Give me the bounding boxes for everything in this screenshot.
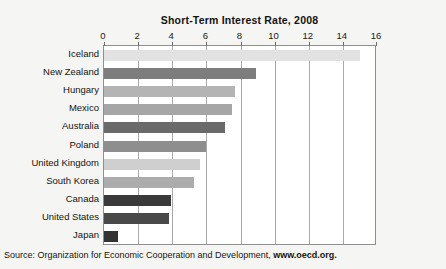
bar-new-zealand bbox=[104, 68, 256, 79]
category-label-south-korea: South Korea bbox=[0, 175, 99, 186]
bar-row bbox=[104, 195, 375, 206]
bar-row bbox=[104, 50, 375, 61]
bar-row bbox=[104, 122, 375, 133]
source-note: Source: Organization for Economic Cooper… bbox=[4, 250, 337, 260]
x-tick-label-10: 10 bbox=[268, 30, 279, 41]
bar-hungary bbox=[104, 86, 235, 97]
chart-title: Short-Term Interest Rate, 2008 bbox=[103, 14, 376, 26]
category-label-united-kingdom: United Kingdom bbox=[0, 157, 99, 168]
x-tick-mark-16 bbox=[376, 42, 377, 46]
bar-row bbox=[104, 213, 375, 224]
bar-united-states bbox=[104, 213, 169, 224]
x-tick-label-12: 12 bbox=[302, 30, 313, 41]
category-label-japan: Japan bbox=[0, 229, 99, 240]
category-label-iceland: Iceland bbox=[0, 48, 99, 59]
category-label-australia: Australia bbox=[0, 120, 99, 131]
category-label-new-zealand: New Zealand bbox=[0, 66, 99, 77]
category-label-united-states: United States bbox=[0, 211, 99, 222]
bar-row bbox=[104, 141, 375, 152]
bar-row bbox=[104, 159, 375, 170]
x-tick-label-0: 0 bbox=[100, 30, 105, 41]
y-axis-category-labels: IcelandNew ZealandHungaryMexicoAustralia… bbox=[0, 45, 99, 245]
bar-united-kingdom bbox=[104, 159, 200, 170]
bar-row bbox=[104, 104, 375, 115]
bar-row bbox=[104, 86, 375, 97]
bar-canada bbox=[104, 195, 171, 206]
source-prefix: Source: Organization for Economic Cooper… bbox=[4, 250, 273, 260]
category-label-mexico: Mexico bbox=[0, 102, 99, 113]
bar-row bbox=[104, 68, 375, 79]
x-tick-label-8: 8 bbox=[237, 30, 242, 41]
x-tick-label-6: 6 bbox=[203, 30, 208, 41]
x-tick-label-2: 2 bbox=[134, 30, 139, 41]
bar-australia bbox=[104, 122, 225, 133]
bar-japan bbox=[104, 231, 118, 242]
category-label-poland: Poland bbox=[0, 139, 99, 150]
source-url: www.oecd.org. bbox=[273, 250, 337, 260]
bar-poland bbox=[104, 141, 206, 152]
bar-iceland bbox=[104, 50, 360, 61]
bar-south-korea bbox=[104, 177, 194, 188]
bar-row bbox=[104, 177, 375, 188]
x-tick-label-14: 14 bbox=[337, 30, 348, 41]
bar-mexico bbox=[104, 104, 232, 115]
category-label-canada: Canada bbox=[0, 193, 99, 204]
plot-area bbox=[103, 45, 376, 245]
bar-series bbox=[104, 46, 375, 244]
bar-row bbox=[104, 231, 375, 242]
chart-figure: Short-Term Interest Rate, 2008 024681012… bbox=[0, 0, 446, 269]
x-tick-label-16: 16 bbox=[371, 30, 382, 41]
x-axis-tick-labels: 0246810121416 bbox=[103, 30, 376, 43]
x-tick-label-4: 4 bbox=[169, 30, 174, 41]
category-label-hungary: Hungary bbox=[0, 84, 99, 95]
